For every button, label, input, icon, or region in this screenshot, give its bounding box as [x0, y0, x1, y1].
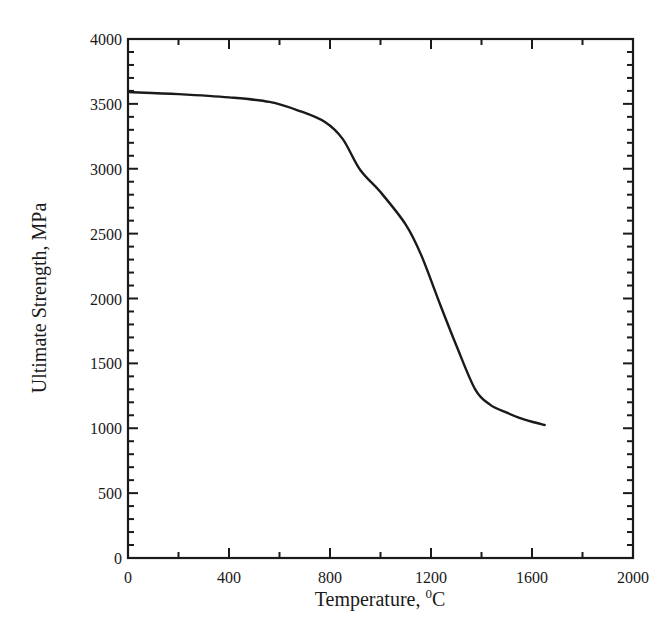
- x-tick-label: 2000: [617, 569, 649, 586]
- y-tick-label: 3500: [90, 96, 122, 113]
- y-tick-label: 2500: [90, 226, 122, 243]
- y-tick-label: 1000: [90, 420, 122, 437]
- x-axis-title: Temperature, 0C: [315, 586, 446, 611]
- strength-vs-temperature-chart: 0400800120016002000 05001000150020002500…: [0, 0, 670, 637]
- x-tick-label: 400: [217, 569, 241, 586]
- y-tick-label: 3000: [90, 161, 122, 178]
- x-tick-label: 1600: [516, 569, 548, 586]
- y-tick-label: 0: [114, 550, 122, 567]
- x-tick-label: 0: [124, 569, 132, 586]
- major-ticks: [128, 39, 633, 558]
- x-tick-labels: 0400800120016002000: [124, 569, 649, 586]
- y-tick-label: 4000: [90, 31, 122, 48]
- x-tick-label: 800: [318, 569, 342, 586]
- y-tick-labels: 05001000150020002500300035004000: [90, 31, 122, 567]
- x-tick-label: 1200: [415, 569, 447, 586]
- y-tick-label: 2000: [90, 291, 122, 308]
- y-axis-title: Ultimate Strength, MPa: [28, 203, 51, 394]
- y-tick-label: 500: [98, 485, 122, 502]
- strength-curve: [129, 92, 545, 425]
- y-tick-label: 1500: [90, 355, 122, 372]
- minor-ticks: [128, 39, 633, 558]
- plot-frame: [128, 39, 633, 558]
